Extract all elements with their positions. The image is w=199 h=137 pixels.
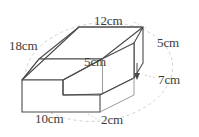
front-slab-bottom-right-edge — [100, 95, 134, 112]
leader-2cm — [88, 114, 99, 120]
right-end-face — [134, 27, 143, 78]
leader-7cm — [145, 75, 156, 78]
geometry-figure: 18cm 12cm 5cm 5cm 7cm 10cm 2cm — [0, 0, 199, 137]
label-front-step-depth: 2cm — [101, 113, 123, 126]
label-right-depth: 7cm — [158, 73, 180, 86]
label-back-left-depth: 18cm — [9, 39, 37, 52]
label-right-height: 5cm — [157, 36, 179, 49]
label-front-bottom-width: 10cm — [35, 112, 63, 125]
label-top-back-width: 12cm — [94, 14, 122, 27]
label-inner-step-height: 5cm — [84, 55, 106, 68]
